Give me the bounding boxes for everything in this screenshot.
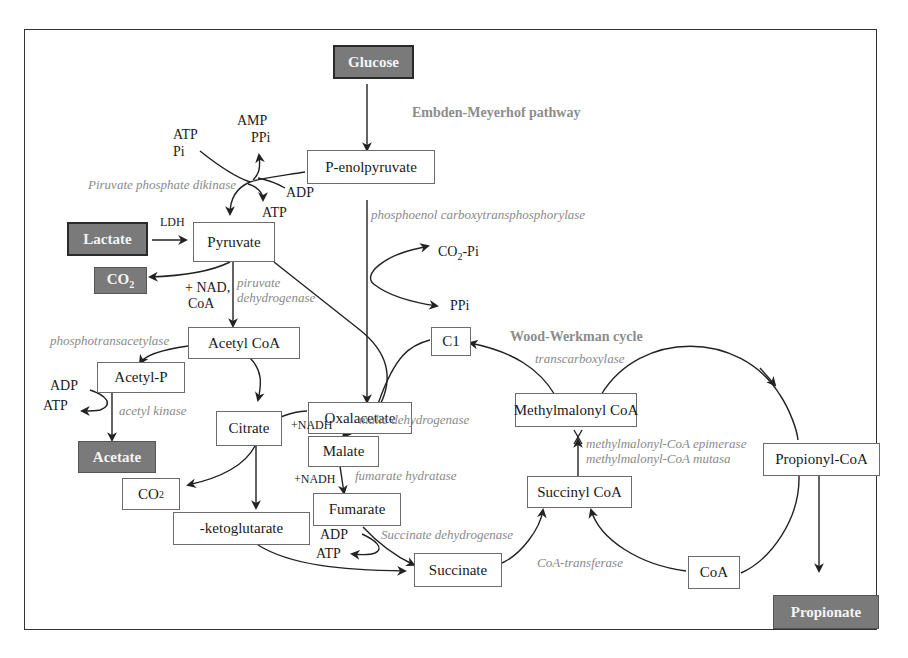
node-acetyl-p[interactable]: Acetyl-P [97, 362, 185, 393]
enzyme-transcarboxylase: transcarboxylase [535, 352, 625, 366]
cofactor-nadh-2: +NADH [294, 472, 335, 487]
wood-werkman-title: Wood-Werkman cycle [510, 329, 643, 345]
enzyme-succinate-dehydrogenase: Succinate dehydrogenase [381, 528, 513, 542]
cofactor-atp: ATP [173, 127, 198, 142]
enzyme-mm-coa-epimerase: methylmalonyl-CoA epimerase [586, 437, 746, 451]
node-p-enolpyruvate[interactable]: P-enolpyruvate [307, 150, 435, 184]
node-acetate[interactable]: Acetate [78, 441, 156, 473]
node-propionyl-coa[interactable]: Propionyl-CoA [763, 443, 880, 476]
cofactor-ppi: PPi [251, 130, 270, 145]
cofactor-adp-bottom: ADP [320, 527, 348, 542]
node-fumarate[interactable]: Fumarate [313, 493, 401, 526]
co2-label: CO2 [107, 271, 135, 290]
enzyme-ppdk: Piruvate phosphate dikinase [88, 178, 236, 192]
cofactor-coa: CoA [188, 296, 214, 311]
cofactor-co2-pi: CO2-Pi [438, 244, 479, 264]
enzyme-acetyl-kinase: acetyl kinase [119, 404, 187, 418]
cofactor-adp: ADP [286, 185, 314, 200]
node-methylmalonyl-coa[interactable]: Methylmalonyl CoA [515, 393, 637, 427]
cofactor-pi: Pi [173, 144, 185, 159]
node-citrate[interactable]: Citrate [216, 411, 282, 446]
embden-meyerhof-title: Embden-Meyerhof pathway [412, 105, 580, 121]
cofactor-nadh-1: +NADH [291, 418, 332, 433]
cofactor-ppi-mid: PPi [450, 298, 469, 313]
cofactor-adp-left: ADP [50, 378, 78, 393]
node-acetyl-coa[interactable]: Acetyl CoA [188, 327, 300, 359]
enzyme-pdh-2: dehydrogenase [237, 291, 315, 305]
enzyme-fumarate-hydratase: fumarate hydratase [355, 469, 456, 483]
enzyme-coa-transferase: CoA-transferase [537, 556, 623, 570]
node-c1[interactable]: C1 [431, 327, 471, 356]
node-lactate[interactable]: Lactate [67, 222, 148, 256]
enzyme-mm-coa-mutase: methylmalonyl-CoA mutasa [586, 452, 731, 466]
node-propionate[interactable]: Propionate [773, 595, 879, 629]
enzyme-pep-carboxytransphosphorylase: phosphoenol carboxytransphosphorylase [371, 208, 585, 222]
node-malate[interactable]: Malate [308, 436, 379, 467]
cofactor-atp-2: ATP [262, 205, 287, 220]
cofactor-atp-bottom: ATP [316, 546, 341, 561]
cofactor-nad: + NAD, [185, 280, 230, 295]
node-pyruvate[interactable]: Pyruvate [193, 222, 275, 262]
node-ketoglutarate[interactable]: -ketoglutarate [173, 512, 310, 545]
node-co2-citrate[interactable]: CO2 [122, 478, 180, 510]
enzyme-pdh-1: piruvate [237, 276, 280, 290]
node-succinyl-coa[interactable]: Succinyl CoA [527, 476, 632, 508]
cofactor-atp-left: ATP [43, 398, 68, 413]
node-succinate[interactable]: Succinate [414, 553, 502, 587]
node-co2-released[interactable]: CO2 [94, 267, 147, 294]
enzyme-ldh: LDH [160, 215, 185, 230]
enzyme-malic-dehydrogenase: malic dehydrogenase [359, 413, 469, 427]
cofactor-amp: AMP [237, 113, 267, 128]
node-coa[interactable]: CoA [688, 556, 740, 589]
enzyme-phosphotransacetylase: phosphotransacetylase [50, 334, 169, 348]
node-glucose[interactable]: Glucose [333, 45, 414, 79]
